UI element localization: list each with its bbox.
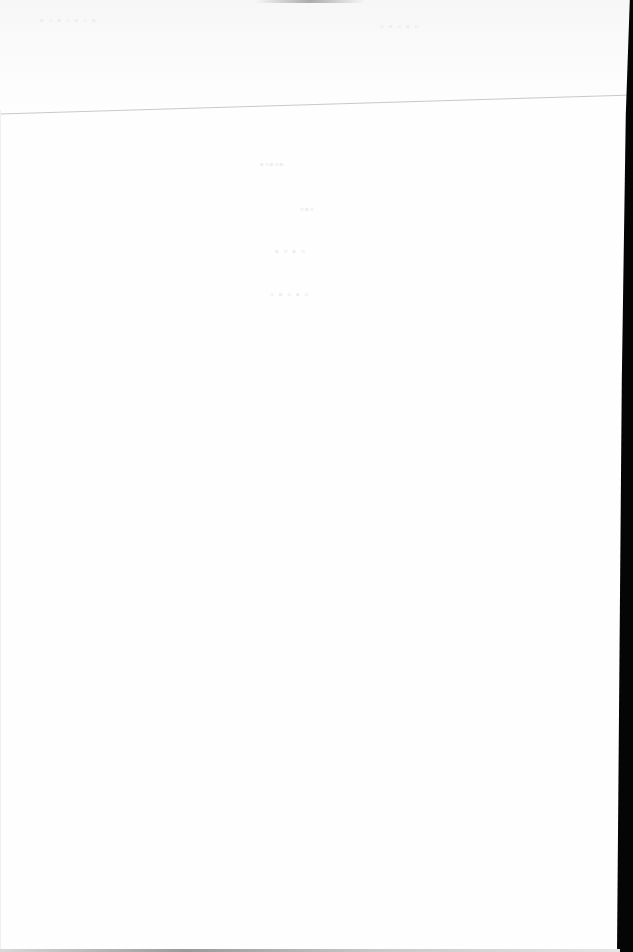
scanned-page: ▪ ▫ ▪ ▫ ▪ ▫ ▪ ▫ ▪ ▫ ▪ ▫ ▪▫▪▫▪ ▫▪▫ ▪ ▫ ▪ … [0,0,633,952]
show-through-marks: ▪ ▫ ▪ ▫ [275,245,306,257]
scanner-border [617,0,633,952]
show-through-marks: ▫ ▪ ▫ ▪ ▫ [270,288,310,300]
page-left-edge [0,110,1,952]
show-through-marks: ▪▫▪▫▪ [260,158,285,170]
show-through-marks: ▪ ▫ ▪ ▫ ▪ ▫ ▪ [40,14,97,26]
show-through-marks: ▫▪▫ [300,203,315,215]
show-through-marks: ▫ ▪ ▫ ▪ ▫ [380,20,420,32]
